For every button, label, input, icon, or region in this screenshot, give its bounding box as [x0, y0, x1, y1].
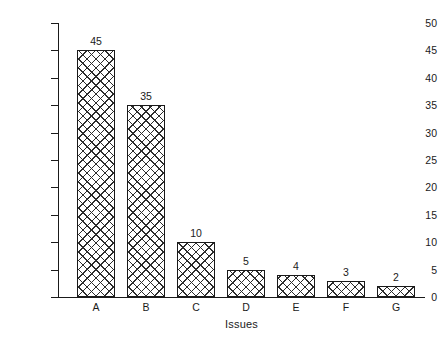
bar-a[interactable]	[77, 50, 115, 297]
x-axis-category-label: C	[171, 302, 221, 313]
x-axis-title: Issues	[58, 318, 425, 330]
y-axis-tick	[51, 160, 58, 161]
y-axis-title: Vote Count	[2, 0, 24, 45]
y-axis-tick	[51, 187, 58, 188]
bar-value-label: 4	[271, 261, 321, 272]
bar-d[interactable]	[227, 270, 265, 297]
y-axis-tick	[51, 270, 58, 271]
bar-value-label: 45	[71, 36, 121, 47]
y-axis-tick-label: 20	[394, 182, 440, 193]
y-axis-tick-label: 10	[394, 237, 440, 248]
y-axis-tick	[51, 105, 58, 106]
y-axis-tick-label: 25	[394, 155, 440, 166]
x-axis-category-label: F	[321, 302, 371, 313]
y-axis-tick	[51, 297, 58, 298]
bar-c[interactable]	[177, 242, 215, 297]
bar-value-label: 5	[221, 256, 271, 267]
bar-b[interactable]	[127, 105, 165, 297]
bar-value-label: 3	[321, 267, 371, 278]
y-axis-line	[58, 23, 59, 298]
y-axis-tick	[51, 23, 58, 24]
x-axis-category-label: G	[371, 302, 421, 313]
y-axis-tick	[51, 215, 58, 216]
bar-f[interactable]	[327, 281, 365, 297]
y-axis-tick-label: 35	[394, 100, 440, 111]
bar-value-label: 10	[171, 228, 221, 239]
y-axis-tick	[51, 78, 58, 79]
y-axis-tick	[51, 242, 58, 243]
bar-g[interactable]	[377, 286, 415, 297]
x-axis-category-label: A	[71, 302, 121, 313]
y-axis-tick	[51, 133, 58, 134]
y-axis-tick-label: 30	[394, 127, 440, 138]
x-axis-category-label: E	[271, 302, 321, 313]
bar-chart: Vote Count 05101520253035404550 45A35B10…	[0, 0, 440, 340]
x-axis-category-label: B	[121, 302, 171, 313]
bar-e[interactable]	[277, 275, 315, 297]
y-axis-tick	[51, 50, 58, 51]
x-axis-category-label: D	[221, 302, 271, 313]
bar-value-label: 35	[121, 91, 171, 102]
y-axis-tick-label: 50	[394, 18, 440, 29]
bar-value-label: 2	[371, 272, 421, 283]
y-axis-tick-label: 45	[394, 45, 440, 56]
x-axis-line	[58, 297, 425, 298]
y-axis-tick-label: 40	[394, 73, 440, 84]
y-axis-tick-label: 15	[394, 210, 440, 221]
